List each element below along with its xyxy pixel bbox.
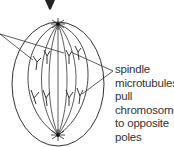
anaphase-diagram: spindle microtubules pull chromosomes to… bbox=[0, 0, 174, 147]
spindle-pole-bottom bbox=[51, 129, 65, 141]
left-pointer-lines bbox=[0, 34, 64, 60]
spindle-microtubules bbox=[41, 24, 76, 135]
down-arrow-icon bbox=[45, 0, 55, 10]
spindle-pole-top bbox=[51, 18, 65, 30]
spindle-annotation-label: spindle microtubules pull chromosomes to… bbox=[115, 63, 174, 144]
